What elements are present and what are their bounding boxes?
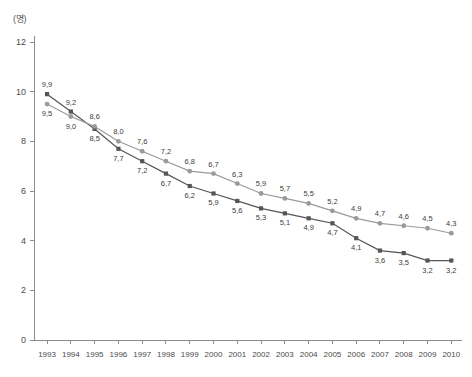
- data-point-marker: [330, 221, 334, 225]
- data-point-label: 8,6: [89, 112, 99, 121]
- data-point-marker: [116, 147, 120, 151]
- x-tick-label: 2004: [300, 350, 318, 359]
- data-point-label: 4,6: [399, 212, 409, 221]
- data-point-label: 3,2: [446, 266, 456, 275]
- data-point-marker: [449, 258, 453, 262]
- x-tick-label: 1995: [86, 350, 104, 359]
- x-tick-label: 1996: [110, 350, 128, 359]
- data-point-label: 5,1: [280, 218, 290, 227]
- data-point-marker: [140, 159, 144, 163]
- data-point-label: 4,1: [351, 243, 361, 252]
- data-point-label: 5,7: [280, 184, 290, 193]
- data-point-label: 8,0: [113, 127, 123, 136]
- data-point-labels: 9,99,28,57,77,26,76,25,95,65,35,14,94,74…: [42, 80, 457, 274]
- data-point-marker: [282, 196, 287, 201]
- data-point-label: 5,2: [327, 197, 337, 206]
- y-tick-label: 0: [21, 335, 26, 345]
- data-point-label: 9,2: [66, 98, 76, 107]
- data-point-label: 6,3: [232, 170, 242, 179]
- data-point-label: 4,7: [327, 228, 337, 237]
- data-point-label: 6,7: [161, 179, 171, 188]
- data-point-marker: [354, 236, 358, 240]
- data-point-marker: [354, 216, 359, 221]
- data-point-label: 4,9: [303, 223, 313, 232]
- data-point-label: 7,2: [161, 147, 171, 156]
- x-tick-label: 1999: [181, 350, 199, 359]
- x-tick-label: 1998: [157, 350, 175, 359]
- data-point-marker: [425, 226, 430, 231]
- line-chart: (명) 121086420 19931994199519961997199819…: [0, 0, 472, 377]
- data-point-marker: [164, 159, 169, 164]
- data-point-label: 3,2: [422, 266, 432, 275]
- data-point-label: 7,7: [113, 154, 123, 163]
- data-point-marker: [164, 172, 168, 176]
- data-point-marker: [235, 199, 239, 203]
- y-tick-label: 10: [16, 87, 26, 97]
- data-point-label: 6,8: [185, 157, 195, 166]
- data-point-label: 8,5: [89, 134, 99, 143]
- data-point-marker: [45, 102, 50, 107]
- data-point-label: 4,7: [375, 209, 385, 218]
- data-point-label: 9,9: [42, 80, 52, 89]
- data-point-label: 5,3: [256, 213, 266, 222]
- data-point-marker: [116, 139, 121, 144]
- data-point-marker: [259, 206, 263, 210]
- data-point-marker: [140, 149, 145, 154]
- data-point-marker: [449, 231, 454, 236]
- y-tick-label: 4: [21, 236, 26, 246]
- data-point-label: 5,9: [208, 198, 218, 207]
- x-tick-label: 2008: [395, 350, 413, 359]
- data-point-label: 4,9: [351, 204, 361, 213]
- data-point-marker: [378, 249, 382, 253]
- y-tick-label: 12: [16, 37, 26, 47]
- data-point-marker: [235, 181, 240, 186]
- x-tick-label: 2009: [419, 350, 437, 359]
- data-point-label: 9,5: [42, 109, 52, 118]
- chart-plot-area: 121086420 199319941995199619971998199920…: [0, 0, 472, 377]
- data-point-marker: [402, 251, 406, 255]
- data-point-label: 4,3: [446, 219, 456, 228]
- y-tick-label: 2: [21, 285, 26, 295]
- data-point-marker: [188, 184, 192, 188]
- data-point-marker: [211, 171, 216, 176]
- data-point-label: 4,5: [422, 214, 432, 223]
- x-tick-label: 1994: [62, 350, 80, 359]
- y-tick-label: 6: [21, 186, 26, 196]
- data-point-marker: [307, 216, 311, 220]
- y-tick-label: 8: [21, 136, 26, 146]
- x-tick-label: 1997: [133, 350, 151, 359]
- data-point-marker: [45, 92, 49, 96]
- y-axis-ticks: 121086420: [16, 37, 34, 345]
- data-point-marker: [401, 223, 406, 228]
- data-point-label: 7,2: [137, 166, 147, 175]
- x-tick-label: 2006: [347, 350, 365, 359]
- data-point-label: 6,7: [208, 160, 218, 169]
- x-tick-label: 2002: [252, 350, 270, 359]
- data-point-marker: [378, 221, 383, 226]
- data-point-label: 5,6: [232, 206, 242, 215]
- x-tick-label: 2000: [205, 350, 223, 359]
- data-series-group: [45, 92, 454, 263]
- x-tick-label: 2005: [324, 350, 342, 359]
- data-point-marker: [187, 169, 192, 174]
- data-point-marker: [211, 191, 215, 195]
- data-point-marker: [283, 211, 287, 215]
- data-point-label: 3,5: [399, 258, 409, 267]
- data-point-marker: [425, 258, 429, 262]
- data-point-label: 5,5: [303, 189, 313, 198]
- x-tick-label: 2007: [371, 350, 389, 359]
- data-point-marker: [259, 191, 264, 196]
- x-tick-label: 1993: [38, 350, 56, 359]
- data-point-label: 5,9: [256, 179, 266, 188]
- series-line-square: [47, 94, 451, 260]
- series-line-circle: [47, 104, 451, 233]
- data-point-marker: [68, 114, 73, 119]
- x-tick-label: 2003: [276, 350, 294, 359]
- data-point-marker: [92, 124, 97, 129]
- data-point-label: 6,2: [185, 191, 195, 200]
- data-point-marker: [330, 208, 335, 213]
- data-point-label: 7,6: [137, 137, 147, 146]
- x-tick-label: 2001: [228, 350, 246, 359]
- x-axis-ticks: 1993199419951996199719981999200020012002…: [38, 340, 461, 359]
- data-point-label: 3,6: [375, 256, 385, 265]
